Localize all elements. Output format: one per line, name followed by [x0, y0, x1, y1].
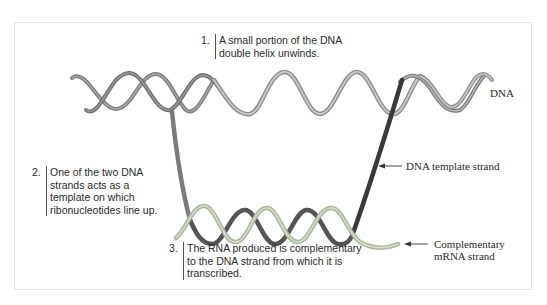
step-text: The RNA produced is complementary to the… — [183, 242, 362, 280]
step-text-line: to the DNA strand from which it is — [187, 255, 362, 268]
arrow-to-mrna-strand — [404, 242, 428, 247]
step-text-line: A small portion of the DNA — [219, 34, 342, 47]
mrna-label-line: Complementary — [434, 238, 505, 250]
dna-unwound-strand-top — [214, 72, 420, 114]
mrna-label-line: mRNA strand — [434, 250, 505, 262]
step-text-line: The RNA produced is complementary — [187, 242, 362, 255]
step-number: 1. — [201, 34, 210, 47]
mrna-strand-label: Complementary mRNA strand — [434, 238, 505, 262]
step-text-line: transcribed. — [187, 267, 362, 280]
step-text-line: template on which — [50, 191, 157, 204]
dna-double-helix-left — [72, 73, 222, 112]
step-number: 2. — [32, 166, 41, 179]
step-text: One of the two DNA strands acts as a tem… — [46, 166, 157, 216]
step-text: A small portion of the DNA double helix … — [215, 34, 342, 59]
dna-strand-descending-left — [172, 112, 190, 220]
step-text-line: ribonucleotides line up. — [50, 204, 157, 217]
step-text-line: double helix unwinds. — [219, 47, 342, 60]
dna-double-helix-right — [400, 74, 492, 111]
step-text-line: One of the two DNA — [50, 166, 157, 179]
step-number: 3. — [169, 242, 178, 255]
template-strand-label: DNA template strand — [406, 160, 499, 172]
step-text-line: strands acts as a — [50, 179, 157, 192]
arrow-to-template-strand — [378, 164, 402, 169]
dna-label: DNA — [490, 87, 514, 99]
dna-template-strand — [352, 80, 402, 236]
